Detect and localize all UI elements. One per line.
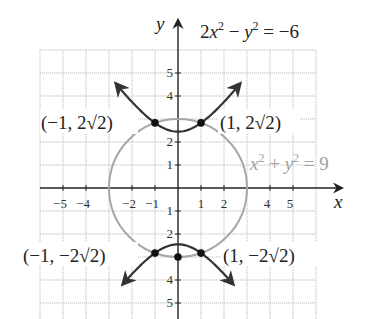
point-upper-left xyxy=(151,119,159,127)
circle-equation: x2 + y2 = 9 xyxy=(249,151,329,174)
x-tick-label: −2 xyxy=(122,196,136,211)
point-lower-right xyxy=(197,249,205,257)
point-label-lower-left: (−1, −2√2) xyxy=(23,245,106,267)
point-lower-left xyxy=(151,249,159,257)
y-tick-label: 5 xyxy=(167,295,174,310)
y-tick-label: 1 xyxy=(167,203,174,218)
point-label-lower-right: (1, −2√2) xyxy=(223,245,295,267)
x-tick-label: 1 xyxy=(198,196,205,211)
y-tick-label: 4 xyxy=(167,272,174,287)
x-tick-label: −5 xyxy=(53,196,67,211)
y-tick-label: 2 xyxy=(167,226,174,241)
hyperbola-equation: 2x2 − y2 = −6 xyxy=(200,19,299,42)
point-upper-right xyxy=(197,119,205,127)
eq-end: = −6 xyxy=(259,21,299,42)
x-tick-label: 4 xyxy=(264,196,271,211)
eq-end: = 9 xyxy=(299,153,329,174)
y-tick-label: 4 xyxy=(167,88,174,103)
eq-part: − xyxy=(224,21,244,42)
x-tick-label: −1 xyxy=(145,196,159,211)
point-lower-center xyxy=(174,253,182,261)
y-tick-label: 1 xyxy=(167,157,174,172)
graph: y x 2x2 − y2 = −6 x2 + y2 = 9 (−1, 2√2) … xyxy=(0,0,377,319)
eq-var-y: y xyxy=(283,153,294,174)
x-axis-label: x xyxy=(333,191,343,212)
x-tick-label: 5 xyxy=(287,196,294,211)
y-tick-label: 2 xyxy=(167,134,174,149)
axes xyxy=(40,20,342,319)
x-tick-label: 2 xyxy=(221,196,228,211)
x-tick-label: −4 xyxy=(76,196,90,211)
y-tick-label: 5 xyxy=(167,65,174,80)
eq-part: 2 xyxy=(200,21,210,42)
point-label-upper-right: (1, 2√2) xyxy=(220,112,281,134)
eq-var-y: y xyxy=(242,21,253,42)
point-label-upper-left: (−1, 2√2) xyxy=(41,112,113,134)
eq-part: + xyxy=(264,153,284,174)
y-axis-label: y xyxy=(154,13,165,34)
